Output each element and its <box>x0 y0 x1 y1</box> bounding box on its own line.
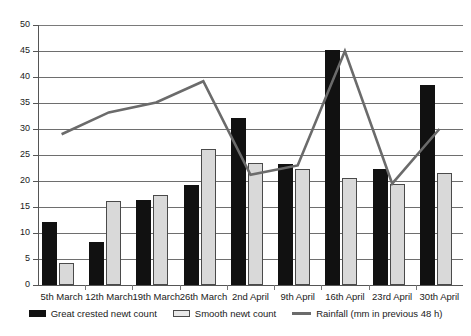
legend-label-rainfall: Rainfall (mm in previous 48 h) <box>316 308 442 319</box>
x-axis-tick-mark <box>321 285 322 290</box>
y-axis-tick-label: 0 <box>0 280 30 289</box>
y-axis-tick-label: 25 <box>0 150 30 159</box>
y-axis-tick-label: 20 <box>0 176 30 185</box>
rainfall-polyline <box>62 51 440 184</box>
x-axis-tick-label: 9th April <box>274 292 321 302</box>
dark-square-swatch-icon <box>29 310 46 317</box>
y-axis-tick-label: 40 <box>0 72 30 81</box>
legend-label-great-crested-newt-count: Great crested newt count <box>51 308 157 319</box>
x-axis-tick-mark <box>227 285 228 290</box>
x-axis-line <box>38 285 463 286</box>
x-axis-tick-label: 2nd April <box>227 292 274 302</box>
light-square-swatch-icon <box>173 310 190 317</box>
x-axis-tick-mark <box>369 285 370 290</box>
y-axis-tick-label: 35 <box>0 98 30 107</box>
x-axis-tick-mark <box>132 285 133 290</box>
y-axis-tick-label: 5 <box>0 254 30 263</box>
legend-item-rainfall: Rainfall (mm in previous 48 h) <box>292 308 442 319</box>
legend-item-smooth-newt-count: Smooth newt count <box>173 308 276 319</box>
legend-item-great-crested-newt-count: Great crested newt count <box>29 308 157 319</box>
y-axis-tick-label: 30 <box>0 124 30 133</box>
x-axis-tick-mark <box>416 285 417 290</box>
chart-legend: Great crested newt count Smooth newt cou… <box>0 308 471 319</box>
y-axis-tick-label: 10 <box>0 228 30 237</box>
x-axis-tick-label: 30th April <box>416 292 463 302</box>
x-axis-tick-label: 26th March <box>180 292 227 302</box>
x-axis-tick-mark <box>274 285 275 290</box>
x-axis-tick-label: 23rd April <box>369 292 416 302</box>
x-axis-tick-label: 19th March <box>132 292 179 302</box>
newt-count-rainfall-chart: 05101520253035404550 5th March12th March… <box>0 0 471 336</box>
legend-label-smooth-newt-count: Smooth newt count <box>195 308 276 319</box>
y-axis-tick-label: 45 <box>0 46 30 55</box>
x-axis-tick-label: 5th March <box>38 292 85 302</box>
rainfall-line-series <box>38 25 463 285</box>
line-swatch-icon <box>292 312 311 315</box>
x-axis-tick-mark <box>180 285 181 290</box>
y-axis-tick-label: 15 <box>0 202 30 211</box>
x-axis-tick-mark <box>85 285 86 290</box>
y-axis-tick-label: 50 <box>0 20 30 29</box>
x-axis-tick-label: 12th March <box>85 292 132 302</box>
x-axis-tick-label: 16th April <box>321 292 368 302</box>
